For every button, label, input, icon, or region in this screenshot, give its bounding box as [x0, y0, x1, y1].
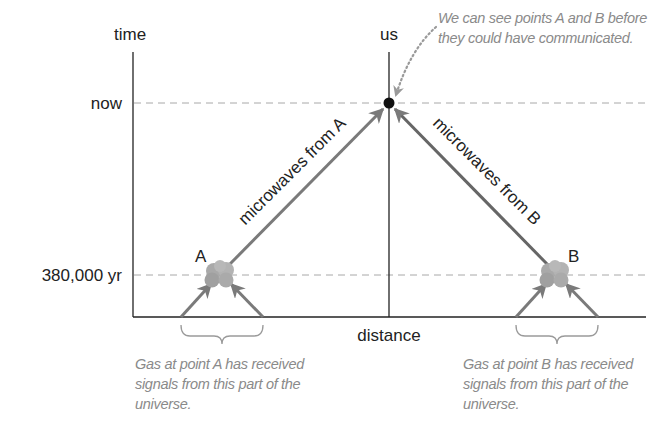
brace-b-icon — [516, 325, 598, 344]
horizon-annotation-text: We can see points A and B before they co… — [438, 8, 663, 48]
point-b-label: B — [568, 247, 579, 266]
brace-a-icon — [181, 325, 263, 344]
microwave-arrow-a — [228, 109, 383, 266]
point-b-note: Gas at point B has received signals from… — [463, 354, 663, 414]
microwaves-from-a-label: microwaves from A — [235, 113, 350, 228]
gas-cloud-b-icon — [540, 260, 570, 288]
gas-cloud-a-icon — [205, 260, 235, 288]
now-tick-label: now — [91, 94, 123, 113]
signal-arrow-b-right — [566, 284, 598, 317]
signal-arrow-a-right — [231, 284, 263, 317]
signal-arrow-b-left — [516, 284, 546, 317]
annotation-pointer-arrow — [396, 27, 436, 95]
point-a-note: Gas at point A has received signals from… — [135, 354, 335, 414]
time-axis-label: time — [114, 25, 146, 44]
point-a-label: A — [195, 247, 207, 266]
recombination-tick-label: 380,000 yr — [42, 266, 123, 285]
microwaves-from-b-label: microwaves from B — [429, 113, 545, 229]
observer-dot — [384, 98, 395, 109]
observer-label: us — [380, 25, 398, 44]
signal-arrow-a-left — [181, 284, 211, 317]
distance-axis-label: distance — [357, 326, 420, 345]
microwave-arrow-b — [395, 109, 549, 266]
